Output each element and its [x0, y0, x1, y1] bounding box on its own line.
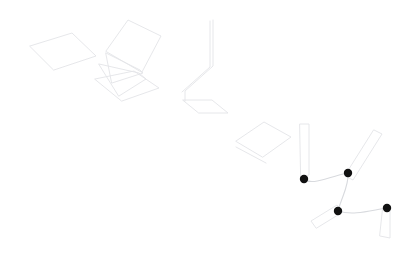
illustration-canvas: Laptop opening-angle storyboard laptop o…	[0, 0, 408, 254]
hinge-keyframe-4[interactable]	[383, 204, 391, 212]
hinge-keyframe-3[interactable]	[334, 207, 342, 215]
laptop-storyboard-svg	[0, 0, 408, 254]
canvas-background	[0, 0, 408, 254]
hinge-keyframe-2[interactable]	[344, 169, 352, 177]
hinge-keyframe-1[interactable]	[300, 175, 308, 183]
